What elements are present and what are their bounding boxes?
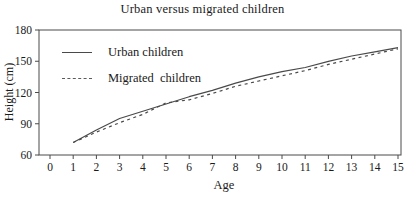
x-tick-label: 13	[346, 161, 358, 173]
x-tick-label: 5	[163, 161, 169, 173]
x-tick-label: 2	[94, 161, 100, 173]
x-tick-label: 0	[47, 161, 53, 173]
legend-label-migrated: Migrated children	[108, 71, 201, 86]
legend-item-migrated: Migrated children	[62, 65, 201, 91]
x-axis-label: Age	[214, 178, 235, 193]
legend: Urban children Migrated children	[62, 39, 201, 91]
y-tick-label: 90	[21, 118, 33, 130]
dashed-line-swatch	[62, 78, 92, 79]
x-tick-label: 1	[70, 161, 76, 173]
x-tick-label: 4	[140, 161, 146, 173]
chart-container: Urban versus migrated children Height (c…	[0, 0, 405, 197]
x-tick-label: 11	[300, 161, 311, 173]
x-tick-label: 14	[369, 161, 381, 173]
line-chart-plot: 01234567891011121314156090120150180	[0, 0, 405, 197]
x-tick-label: 6	[186, 161, 192, 173]
x-tick-label: 12	[323, 161, 335, 173]
legend-label-urban: Urban children	[108, 45, 183, 60]
x-tick-label: 10	[276, 161, 288, 173]
y-tick-label: 180	[15, 24, 33, 36]
x-tick-label: 7	[210, 161, 216, 173]
x-tick-label: 8	[233, 161, 239, 173]
y-tick-label: 60	[21, 149, 33, 161]
legend-item-urban: Urban children	[62, 39, 201, 65]
y-tick-label: 150	[15, 55, 33, 67]
solid-line-swatch	[62, 52, 92, 53]
x-tick-label: 3	[117, 161, 123, 173]
x-tick-label: 9	[256, 161, 262, 173]
y-tick-label: 120	[15, 87, 33, 99]
x-tick-label: 15	[392, 161, 404, 173]
